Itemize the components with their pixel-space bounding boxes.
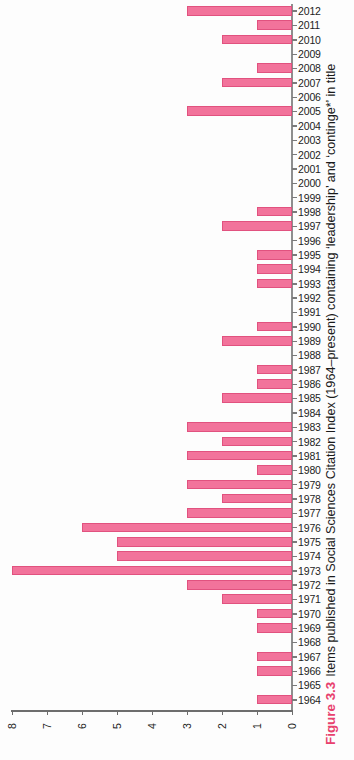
bar <box>257 250 292 260</box>
value-tick-label: 3 <box>181 719 193 733</box>
category-tick <box>292 341 297 342</box>
chart-plot-area: 876543210 <box>0 0 300 716</box>
bar <box>257 365 292 375</box>
category-tick <box>292 10 297 11</box>
bar-row <box>0 492 300 506</box>
bar <box>222 594 292 604</box>
bar-row <box>0 162 300 176</box>
category-tick <box>292 685 297 686</box>
category-tick <box>292 297 297 298</box>
bar <box>257 20 292 30</box>
category-tick <box>292 484 297 485</box>
figure-caption-wrapper: Figure 3.3Items published in Social Scie… <box>308 0 354 760</box>
bar-row <box>0 549 300 563</box>
bar-row <box>0 435 300 449</box>
bar-row <box>0 119 300 133</box>
bar <box>222 35 292 45</box>
value-tick-label: 0 <box>286 719 298 733</box>
bar <box>257 695 292 705</box>
category-tick <box>292 68 297 69</box>
bar-row <box>0 191 300 205</box>
value-tick <box>82 710 83 715</box>
category-tick <box>292 441 297 442</box>
bar-row <box>0 33 300 47</box>
category-tick <box>292 398 297 399</box>
bar-row <box>0 478 300 492</box>
value-tick <box>257 710 258 715</box>
bar-row <box>0 678 300 692</box>
bar <box>187 580 292 590</box>
category-tick <box>292 312 297 313</box>
bar-row <box>0 693 300 707</box>
bar <box>257 279 292 289</box>
bar <box>257 609 292 619</box>
value-tick-label: 4 <box>146 719 158 733</box>
category-tick <box>292 699 297 700</box>
bar-row <box>0 420 300 434</box>
bar-row <box>0 291 300 305</box>
category-tick <box>292 455 297 456</box>
category-tick <box>292 599 297 600</box>
category-tick <box>292 527 297 528</box>
category-tick <box>292 168 297 169</box>
figure-number: Figure 3.3 <box>323 682 338 745</box>
category-tick <box>292 283 297 284</box>
bar-row <box>0 650 300 664</box>
value-tick <box>12 710 13 715</box>
bar <box>257 652 292 662</box>
bar <box>257 63 292 73</box>
bar-row <box>0 564 300 578</box>
category-tick <box>292 656 297 657</box>
category-tick <box>292 254 297 255</box>
category-tick <box>292 226 297 227</box>
category-tick <box>292 570 297 571</box>
category-tick <box>292 369 297 370</box>
bar-row <box>0 449 300 463</box>
bar <box>257 264 292 274</box>
bar-row <box>0 406 300 420</box>
bar-row <box>0 148 300 162</box>
category-tick <box>292 82 297 83</box>
value-tick <box>292 710 293 715</box>
value-tick-label: 8 <box>6 719 18 733</box>
category-tick <box>292 97 297 98</box>
bar-row <box>0 463 300 477</box>
bar-row <box>0 664 300 678</box>
bar-row <box>0 104 300 118</box>
figure-caption: Figure 3.3Items published in Social Scie… <box>323 9 339 751</box>
value-tick-label: 1 <box>251 719 263 733</box>
bar-row <box>0 592 300 606</box>
bar <box>222 494 292 504</box>
bar <box>117 551 292 561</box>
category-tick <box>292 326 297 327</box>
category-tick <box>292 613 297 614</box>
category-tick <box>292 154 297 155</box>
bar-row <box>0 621 300 635</box>
bar-row <box>0 176 300 190</box>
bar <box>117 537 292 547</box>
bar <box>82 523 292 533</box>
bar-row <box>0 277 300 291</box>
bar-row <box>0 635 300 649</box>
bar-row <box>0 4 300 18</box>
bar <box>187 480 292 490</box>
bar <box>222 78 292 88</box>
category-tick <box>292 197 297 198</box>
bar-row <box>0 76 300 90</box>
category-tick <box>292 111 297 112</box>
bar <box>222 437 292 447</box>
category-tick <box>292 513 297 514</box>
value-tick <box>117 710 118 715</box>
bar-row <box>0 205 300 219</box>
value-tick-label: 6 <box>76 719 88 733</box>
category-tick <box>292 39 297 40</box>
category-tick <box>292 240 297 241</box>
bar-row <box>0 18 300 32</box>
bar <box>257 322 292 332</box>
bar <box>222 221 292 231</box>
value-tick <box>187 710 188 715</box>
bar-row <box>0 248 300 262</box>
bar-row <box>0 607 300 621</box>
bar <box>187 508 292 518</box>
bar <box>257 465 292 475</box>
